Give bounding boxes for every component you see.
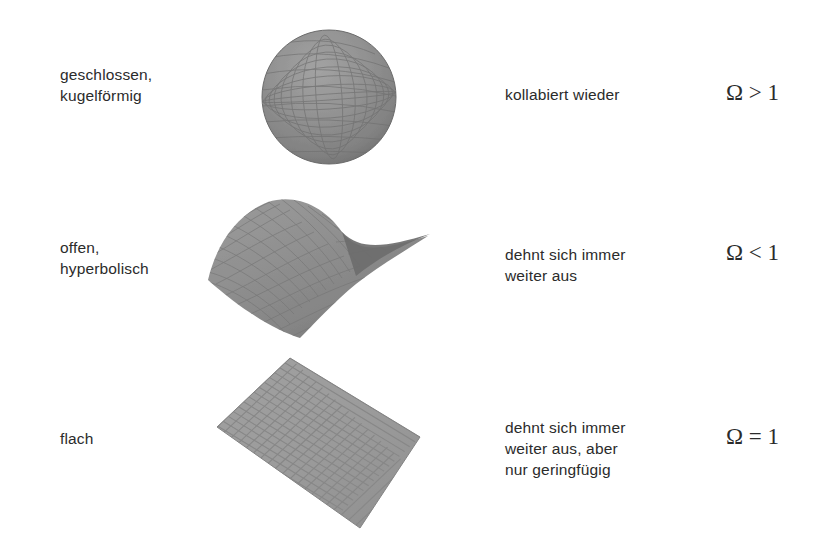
cosmology-geometry-diagram: geschlossen, kugelförmig	[0, 0, 834, 546]
saddle-graphic	[190, 188, 440, 348]
figure-saddle	[190, 188, 440, 348]
row-formula-closed: Ω > 1	[726, 80, 779, 106]
sphere-body	[262, 30, 396, 164]
saddle-tail	[342, 232, 430, 276]
row-label-open: offen, hyperbolisch	[60, 237, 149, 279]
figure-plane	[190, 345, 440, 540]
sphere-graphic	[255, 22, 410, 182]
row-description-open: dehnt sich immer weiter aus	[505, 244, 626, 286]
row-label-flat: flach	[60, 428, 94, 449]
figure-sphere	[255, 22, 410, 182]
row-description-closed: kollabiert wieder	[505, 84, 620, 105]
row-formula-flat: Ω = 1	[726, 424, 779, 450]
plane-graphic	[190, 345, 440, 540]
row-formula-open: Ω < 1	[726, 240, 779, 266]
row-description-flat: dehnt sich immer weiter aus, aber nur ge…	[505, 417, 626, 480]
row-label-closed: geschlossen, kugelförmig	[60, 64, 152, 106]
